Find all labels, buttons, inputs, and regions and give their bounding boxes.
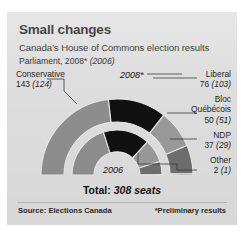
label-ndp: NDP 37 (29): [204, 130, 231, 151]
ring-label-outer: 2008*: [120, 70, 144, 80]
divider: [17, 202, 227, 203]
label-conservative: Conservative 143 (124): [16, 69, 65, 90]
label-other: Other 2 (1): [210, 155, 231, 176]
label-bloc-quebecois: Bloc Québécois 50 (51): [191, 94, 231, 125]
label-ndp-prev: (29): [216, 140, 231, 150]
ring-label-inner: 2006: [103, 165, 123, 175]
label-other-prev: (1): [221, 165, 231, 175]
label-ndp-name: NDP: [204, 130, 231, 140]
label-other-name: Other: [210, 155, 231, 165]
label-liberal-name: Liberal: [200, 69, 231, 79]
label-liberal-value: 76: [200, 79, 209, 89]
label-bloc-name2: Québécois: [191, 104, 231, 114]
label-conservative-prev: (124): [32, 79, 52, 89]
label-liberal-prev: (103): [211, 79, 231, 89]
infographic-card: Small changes Canada’s House of Commons …: [7, 12, 237, 225]
total-value: 308 seats: [114, 184, 161, 196]
total-seats: Total: 308 seats: [7, 184, 237, 196]
label-conservative-name: Conservative: [16, 69, 65, 79]
source-credit: Source: Elections Canada: [18, 206, 112, 215]
label-ndp-value: 37: [204, 140, 213, 150]
label-bloc-prev: (51): [216, 115, 231, 125]
label-conservative-value: 143: [16, 79, 30, 89]
label-other-value: 2: [214, 165, 219, 175]
arc-outer-other: [170, 173, 193, 175]
footnote: *Preliminary results: [155, 206, 226, 215]
label-bloc-name: Bloc: [191, 94, 231, 104]
label-liberal: Liberal 76 (103): [200, 69, 231, 90]
label-bloc-value: 50: [204, 115, 213, 125]
total-prefix: Total:: [83, 184, 114, 196]
